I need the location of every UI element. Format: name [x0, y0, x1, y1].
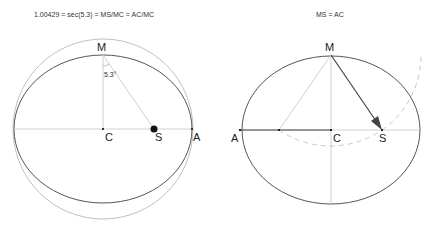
line-m-focus	[279, 55, 331, 130]
dashed-arc-right	[382, 57, 421, 130]
angle-arc	[103, 64, 109, 66]
point-c-right	[330, 129, 332, 131]
label-c: C	[105, 131, 113, 143]
dashed-arc-lower	[279, 130, 382, 146]
point-s-right	[381, 129, 383, 131]
ms-arrow-line	[331, 55, 376, 121]
right-caption: MS = AC	[316, 11, 344, 18]
ms-line	[103, 55, 154, 129]
arrow-head-icon	[371, 116, 382, 130]
left-figure: 1.00429 = sec(5.3) = MS/MC = AC/MC 5.3° …	[13, 11, 201, 219]
angle-label: 5.3°	[104, 71, 117, 78]
point-c	[102, 128, 104, 130]
label-m-right: M	[325, 41, 334, 53]
label-s: S	[155, 131, 162, 143]
point-a-right	[239, 129, 241, 131]
label-s-right: S	[379, 132, 386, 144]
diagram-canvas: 1.00429 = sec(5.3) = MS/MC = AC/MC 5.3° …	[0, 0, 430, 234]
label-m: M	[97, 41, 106, 53]
left-caption: 1.00429 = sec(5.3) = MS/MC = AC/MC	[34, 11, 154, 19]
label-a-right: A	[231, 132, 239, 144]
label-a: A	[193, 131, 201, 143]
point-focus	[278, 129, 280, 131]
right-figure: MS = AC M C S A	[231, 11, 421, 204]
point-a	[191, 128, 193, 130]
label-c-right: C	[333, 132, 341, 144]
